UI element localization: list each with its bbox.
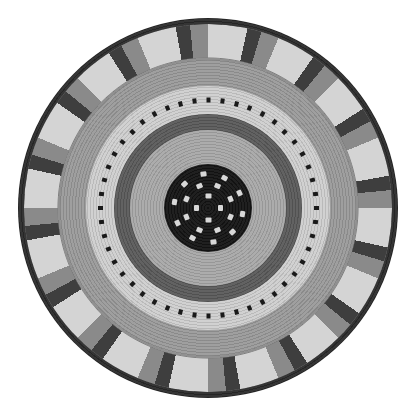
- pattern-dot: [313, 192, 318, 197]
- pattern-dot: [313, 220, 318, 225]
- pattern-dot: [99, 192, 104, 197]
- pattern-dot: [207, 98, 211, 103]
- center-dot: [206, 218, 212, 223]
- pattern-dot: [192, 98, 197, 103]
- basket-photo: Woven coiled basket viewed from above: [0, 0, 413, 416]
- pattern-dot: [314, 206, 319, 210]
- center-dot: [218, 205, 223, 211]
- pattern-dot: [220, 98, 225, 103]
- pattern-dot: [220, 312, 225, 317]
- center-dot: [239, 210, 245, 217]
- pattern-dot: [99, 220, 104, 225]
- center-disc: [164, 164, 252, 252]
- pattern-dot: [207, 314, 211, 319]
- pattern-dot: [192, 312, 197, 317]
- pattern-dot: [98, 206, 103, 210]
- center-dot: [206, 194, 212, 199]
- center-dot: [210, 239, 217, 245]
- center-dot: [194, 205, 199, 211]
